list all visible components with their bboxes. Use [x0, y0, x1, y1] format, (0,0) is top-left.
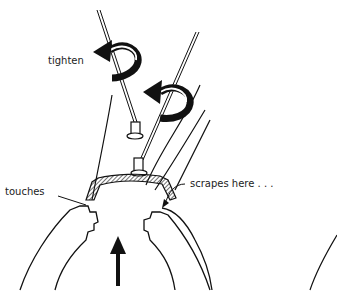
brake-arm-far: [310, 235, 337, 290]
rim-section: [86, 174, 176, 200]
brake-pad-right: [144, 208, 212, 290]
brake-pad-left: [20, 206, 98, 290]
touches-label: touches: [5, 186, 45, 197]
scrapes-leader-arrowhead: [162, 199, 169, 208]
nipple-left: [127, 122, 143, 139]
tighten-label: tighten: [48, 55, 84, 66]
wheel-truing-illustration: [0, 0, 337, 294]
nipple-right: [131, 158, 147, 176]
touches-leader: [58, 196, 86, 205]
rotation-arrow-icon: [93, 40, 138, 78]
scrapes-label: scrapes here . . .: [190, 178, 273, 189]
upward-arrow-icon: [110, 236, 126, 286]
